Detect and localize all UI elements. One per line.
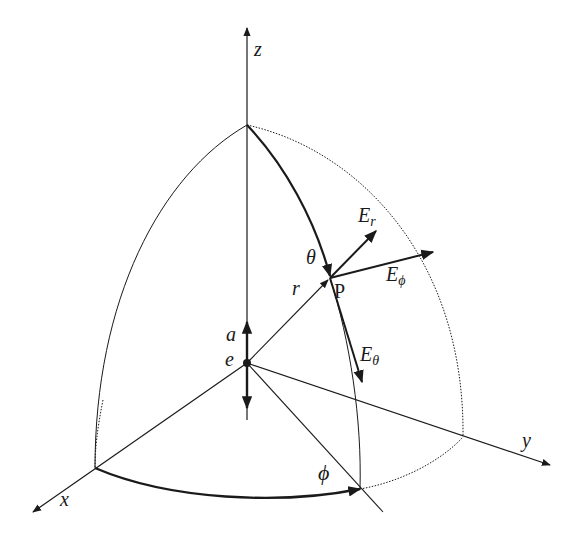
equator-dotted-arc xyxy=(360,437,463,489)
point-p-label: P xyxy=(334,280,345,302)
x-axis-label: x xyxy=(59,488,69,510)
spherical-diagram: z x y a e r P θ ϕ Er Eϕ Eθ xyxy=(0,0,579,533)
e-theta-label: Eθ xyxy=(359,343,379,368)
origin-label: e xyxy=(225,348,234,370)
e-r-label: Er xyxy=(357,204,376,229)
origin-charge xyxy=(243,359,251,367)
e-r-vector xyxy=(330,231,376,278)
e-phi-label: Eϕ xyxy=(385,263,405,288)
theta-arc xyxy=(247,125,330,276)
y-axis-label: y xyxy=(520,429,531,452)
dipole-label: a xyxy=(226,323,236,345)
z-axis-label: z xyxy=(253,38,262,60)
y-axis xyxy=(247,363,550,465)
radius-label: r xyxy=(292,277,300,299)
meridian-through-p xyxy=(330,278,360,489)
theta-label: θ xyxy=(306,246,316,268)
e-phi-vector xyxy=(330,252,433,278)
phi-label: ϕ xyxy=(318,460,329,485)
radius-vector xyxy=(247,280,328,363)
